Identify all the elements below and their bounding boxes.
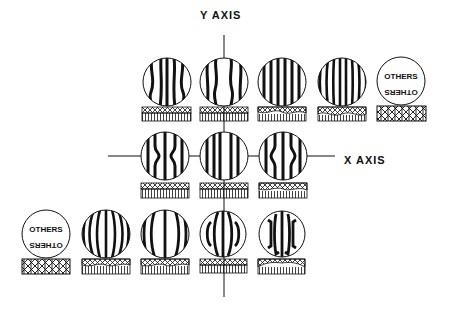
others-label: OTHERS <box>384 72 418 81</box>
others-label-inverted: OTHERS <box>384 88 418 97</box>
bottom-cell-2 <box>82 208 130 274</box>
bottom-cell-3 <box>141 208 189 274</box>
top-cell-3 <box>258 56 306 121</box>
bottom-cell-4 <box>200 210 247 273</box>
top-cell-1 <box>142 58 191 121</box>
top-cell-4 <box>318 56 366 121</box>
top-cell-2 <box>200 58 248 121</box>
interferogram-diagram: Y AXIS X AXIS <box>0 0 451 311</box>
others-label: OTHERS <box>29 225 63 234</box>
bottom-cell-others: OTHERS OTHERS <box>22 210 70 274</box>
y-axis-label: Y AXIS <box>200 9 241 21</box>
others-label-inverted: OTHERS <box>29 241 63 250</box>
bottom-cell-5 <box>258 210 305 274</box>
middle-cell-2 <box>200 130 248 198</box>
middle-cell-1 <box>141 130 189 198</box>
x-axis-label: X AXIS <box>344 154 386 166</box>
middle-cell-3 <box>259 130 307 198</box>
top-cell-others: OTHERS OTHERS <box>377 57 426 121</box>
